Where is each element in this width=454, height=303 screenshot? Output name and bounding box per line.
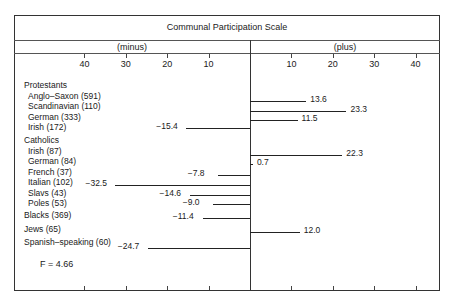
value-label: −9.0: [183, 197, 200, 207]
tick-top: [209, 54, 210, 58]
bar: [250, 164, 253, 165]
tick-label: 10: [281, 59, 301, 69]
tick-top: [333, 54, 334, 58]
tick-top: [126, 54, 127, 58]
bar: [190, 195, 250, 196]
value-label: 11.5: [302, 113, 318, 123]
tick-bottom: [167, 286, 168, 290]
tick-label: 30: [116, 59, 136, 69]
bar: [250, 111, 346, 112]
tick-top: [167, 54, 168, 58]
bar: [250, 232, 300, 233]
row-label: Slavs (43): [28, 188, 66, 198]
tick-top: [291, 54, 292, 58]
tick-label: 20: [323, 59, 343, 69]
tick-label: 10: [199, 59, 219, 69]
bar: [186, 128, 250, 129]
f-statistic: F = 4.66: [40, 259, 73, 269]
row-label: Blacks (369): [24, 210, 71, 220]
bar: [213, 204, 250, 205]
value-label: −15.4: [156, 121, 178, 131]
tick-bottom: [126, 286, 127, 290]
tick-label: 20: [157, 59, 177, 69]
row-label: Scandinavian (110): [28, 101, 101, 111]
value-label: −24.7: [118, 241, 140, 251]
bar: [203, 218, 250, 219]
subheader-divider: [14, 53, 440, 54]
bar: [250, 101, 306, 102]
bar: [250, 120, 298, 121]
tick-label: 30: [364, 59, 384, 69]
row-label: German (333): [28, 112, 81, 122]
value-label: 0.7: [257, 157, 269, 167]
value-label: −32.5: [85, 178, 107, 188]
bar: [115, 185, 250, 186]
tick-bottom: [333, 286, 334, 290]
tick-top: [374, 54, 375, 58]
value-label: 13.6: [310, 94, 327, 104]
value-label: −7.8: [188, 168, 205, 178]
tick-bottom: [84, 286, 85, 290]
tick-label: 40: [406, 59, 426, 69]
minus-label: (minus): [14, 42, 250, 52]
tick-bottom: [374, 286, 375, 290]
value-label: 12.0: [304, 225, 321, 235]
value-label: 22.3: [346, 148, 363, 158]
bar: [250, 155, 342, 156]
row-label: Anglo–Saxon (591): [28, 91, 101, 101]
row-label: German (84): [28, 156, 76, 166]
row-label: Jews (65): [24, 224, 61, 234]
plus-label: (plus): [250, 42, 440, 52]
group-label: Catholics: [24, 135, 59, 145]
chart-frame: [14, 15, 440, 291]
tick-top: [84, 54, 85, 58]
value-label: −11.4: [173, 211, 194, 221]
row-label: French (37): [28, 167, 72, 177]
bar: [218, 175, 250, 176]
row-label: Poles (53): [28, 198, 67, 208]
group-label: Protestants: [24, 80, 67, 90]
row-label: Irish (87): [28, 146, 62, 156]
title-divider: [14, 40, 440, 41]
value-label: −14.6: [160, 188, 182, 198]
row-label: Italian (102): [28, 177, 73, 187]
tick-top: [416, 54, 417, 58]
value-label: 23.3: [350, 104, 367, 114]
tick-label: 40: [74, 59, 94, 69]
zero-axis: [250, 40, 251, 291]
chart-title: Communal Participation Scale: [14, 22, 440, 32]
row-label: Irish (172): [28, 122, 66, 132]
row-label: Spanish–speaking (60): [24, 237, 111, 247]
tick-bottom: [209, 286, 210, 290]
tick-bottom: [291, 286, 292, 290]
bar: [148, 248, 250, 249]
tick-bottom: [416, 286, 417, 290]
